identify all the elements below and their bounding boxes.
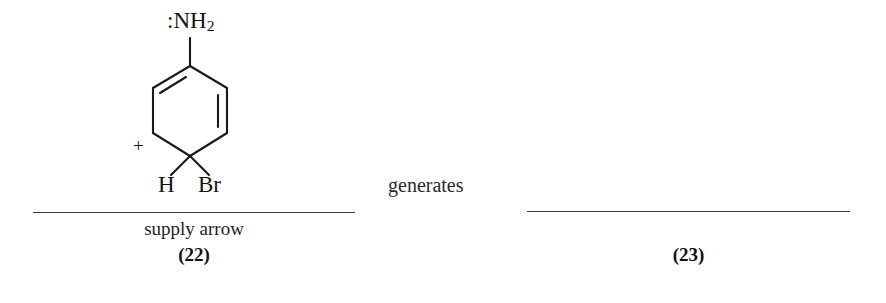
bromine-atom-label: Br [198,172,221,198]
positive-charge-label: + [133,135,144,157]
left-structure-number: (22) [33,244,355,266]
ring-bond-bottom-right [190,133,227,156]
right-structure-number: (23) [527,244,850,266]
ring-bond-top-right [190,66,227,88]
hydrogen-atom-label: H [158,172,175,198]
double-bond-inner-top-left [160,77,186,93]
left-divider-rule [33,212,355,213]
amine-group-label: :NH2 [167,8,214,35]
right-divider-rule [527,211,850,212]
figure-canvas: :NH2 H Br + supply arrow (22) generates … [0,0,886,303]
generates-connector-label: generates [388,174,464,197]
left-structure-panel: :NH2 H Br + supply arrow (22) [0,0,390,303]
ring-bond-bottom-left [153,133,190,156]
left-caption-label: supply arrow [33,218,355,240]
